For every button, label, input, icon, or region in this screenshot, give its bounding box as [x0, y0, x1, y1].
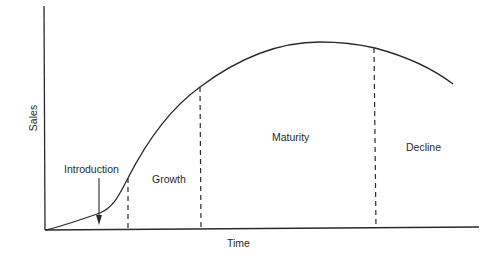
stage-label-growth: Growth	[152, 173, 186, 185]
life-cycle-diagram	[0, 0, 493, 256]
stage-label-maturity: Maturity	[272, 131, 309, 143]
stage-label-decline: Decline	[406, 141, 441, 153]
stage-label-introduction: Introduction	[64, 163, 119, 175]
divider-maturity-decline	[374, 48, 376, 228]
x-axis-label: Time	[227, 237, 250, 249]
sales-curve	[46, 42, 453, 230]
x-axis	[45, 227, 479, 230]
divider-growth-maturity	[200, 87, 201, 229]
y-axis	[44, 6, 45, 230]
arrow-down-icon	[96, 215, 102, 225]
y-axis-label: Sales	[27, 105, 39, 131]
